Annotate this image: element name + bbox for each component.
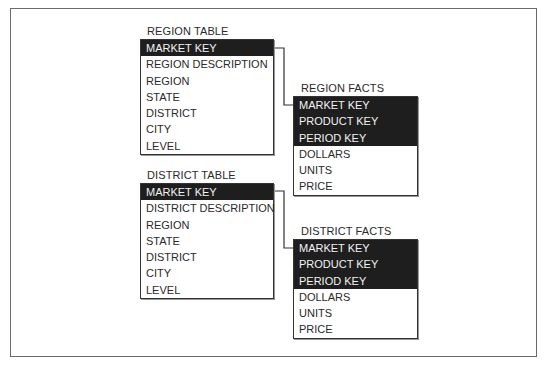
district-facts-table: MARKET KEY PRODUCT KEY PERIOD KEY DOLLAR… bbox=[293, 239, 418, 339]
region-facts-table: MARKET KEY PRODUCT KEY PERIOD KEY DOLLAR… bbox=[293, 96, 418, 196]
region-facts-row: UNITS bbox=[294, 162, 417, 178]
district-table-title: DISTRICT TABLE bbox=[147, 169, 236, 181]
region-table-row: DISTRICT bbox=[141, 105, 273, 121]
region-facts-row: MARKET KEY bbox=[294, 97, 417, 113]
region-facts-row: DOLLARS bbox=[294, 146, 417, 162]
district-facts-row: MARKET KEY bbox=[294, 240, 417, 256]
district-facts-row: DOLLARS bbox=[294, 289, 417, 305]
region-table-row: REGION DESCRIPTION bbox=[141, 56, 273, 72]
region-table-row: STATE bbox=[141, 89, 273, 105]
region-table-row: CITY bbox=[141, 121, 273, 137]
district-facts-row: PERIOD KEY bbox=[294, 273, 417, 289]
district-table-row: STATE bbox=[141, 233, 273, 249]
district-table-row: MARKET KEY bbox=[141, 184, 273, 200]
district-table-row: DISTRICT bbox=[141, 249, 273, 265]
region-table: MARKET KEY REGION DESCRIPTION REGION STA… bbox=[140, 39, 274, 155]
district-facts-title: DISTRICT FACTS bbox=[301, 225, 391, 237]
region-table-row: MARKET KEY bbox=[141, 40, 273, 56]
region-facts-row: PRODUCT KEY bbox=[294, 113, 417, 129]
district-table: MARKET KEY DISTRICT DESCRIPTION REGION S… bbox=[140, 183, 274, 299]
connector-lines bbox=[0, 0, 548, 369]
district-table-row: CITY bbox=[141, 265, 273, 281]
district-table-row: DISTRICT DESCRIPTION bbox=[141, 200, 273, 216]
district-facts-row: PRICE bbox=[294, 321, 417, 337]
district-facts-row: PRODUCT KEY bbox=[294, 256, 417, 272]
region-market-key-connector bbox=[273, 48, 293, 105]
district-market-key-connector bbox=[273, 191, 293, 248]
district-facts-row: UNITS bbox=[294, 305, 417, 321]
region-facts-title: REGION FACTS bbox=[301, 82, 384, 94]
region-table-row: LEVEL bbox=[141, 138, 273, 154]
region-table-title: REGION TABLE bbox=[147, 25, 228, 37]
district-table-row: REGION bbox=[141, 217, 273, 233]
district-table-row: LEVEL bbox=[141, 282, 273, 298]
region-table-row: REGION bbox=[141, 73, 273, 89]
region-facts-row: PERIOD KEY bbox=[294, 130, 417, 146]
region-facts-row: PRICE bbox=[294, 178, 417, 194]
